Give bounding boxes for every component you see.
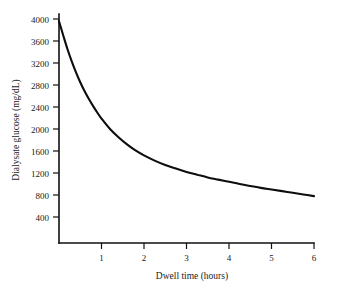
y-axis-title: Dialysate glucose (mg/dL): [11, 79, 22, 180]
y-tick-label: 2400: [31, 103, 50, 113]
x-tick-label: 2: [142, 253, 147, 263]
y-tick-label: 2800: [31, 81, 50, 91]
y-axis-ticks: 400 800 1200 1600 2000 2400 2800 3200 36…: [31, 15, 59, 223]
y-tick-label: 3600: [31, 37, 50, 47]
data-series-line: [59, 21, 314, 196]
x-tick-label: 1: [99, 253, 104, 263]
y-tick-label: 1200: [31, 169, 50, 179]
y-tick-label: 4000: [31, 15, 50, 25]
y-tick-label: 3200: [31, 59, 50, 69]
x-axis-title: Dwell time (hours): [156, 271, 228, 282]
y-tick-label: 400: [36, 213, 50, 223]
chart-figure: 400 800 1200 1600 2000 2400 2800 3200 36…: [0, 0, 342, 288]
y-tick-label: 2000: [31, 125, 50, 135]
y-tick-label: 1600: [31, 147, 50, 157]
x-axis-ticks: 1 2 3 4 5 6: [99, 243, 317, 263]
x-tick-label: 5: [269, 253, 274, 263]
y-tick-label: 800: [36, 191, 50, 201]
line-chart-svg: 400 800 1200 1600 2000 2400 2800 3200 36…: [0, 0, 342, 288]
x-tick-label: 6: [312, 253, 317, 263]
x-tick-label: 3: [184, 253, 189, 263]
x-tick-label: 4: [227, 253, 232, 263]
